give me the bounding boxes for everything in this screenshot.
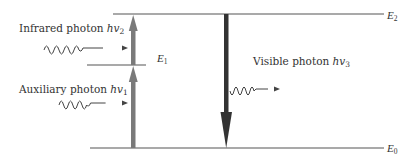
e1-sub: 1 bbox=[164, 57, 168, 66]
e2-letter: E bbox=[387, 9, 394, 21]
level-e0-label: E0 bbox=[387, 143, 397, 156]
visible-sub: 3 bbox=[345, 60, 350, 69]
visible-photon-text: Visible photon bbox=[253, 55, 333, 67]
auxiliary-photon-text: Auxiliary photon bbox=[19, 83, 110, 95]
up-arrow-icon-ir bbox=[129, 15, 138, 65]
infrared-photon-text: Infrared photon bbox=[19, 22, 107, 34]
e0-sub: 0 bbox=[394, 147, 398, 156]
down-arrow-icon-visible bbox=[221, 14, 233, 148]
e0-letter: E bbox=[387, 142, 394, 154]
infrared-hv: hv bbox=[107, 22, 120, 34]
auxiliary-photon-label: Auxiliary photon hv1 bbox=[19, 84, 128, 97]
infrared-photon-label: Infrared photon hv2 bbox=[19, 23, 124, 36]
visible-hv: hv bbox=[333, 55, 346, 67]
wave-icon-visible bbox=[230, 87, 280, 96]
level-e1-label: E1 bbox=[157, 53, 167, 66]
wave-icon-auxiliary bbox=[59, 101, 128, 110]
auxiliary-hv: hv bbox=[110, 83, 123, 95]
level-e2-label: E2 bbox=[387, 10, 397, 23]
visible-photon-label: Visible photon hv3 bbox=[253, 56, 350, 69]
e1-letter: E bbox=[157, 52, 164, 64]
infrared-sub: 2 bbox=[120, 27, 125, 36]
auxiliary-sub: 1 bbox=[123, 88, 128, 97]
wave-icon-infrared bbox=[44, 46, 128, 55]
e2-sub: 2 bbox=[394, 14, 398, 23]
energy-level-diagram: Infrared photon hv2 Auxiliary photon hv1… bbox=[0, 0, 415, 161]
up-arrow-icon-aux bbox=[129, 66, 138, 148]
